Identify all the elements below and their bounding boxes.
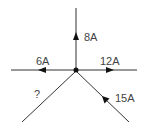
label-lower-right-current: 15A <box>115 92 135 104</box>
arrow-left-icon <box>38 67 46 73</box>
junction-node <box>74 68 79 73</box>
label-up-current: 8A <box>84 31 98 43</box>
arrow-up-icon <box>73 32 79 40</box>
label-left-current: 6A <box>36 55 50 67</box>
arrow-right-icon <box>106 67 114 73</box>
label-unknown-current: ? <box>34 88 40 100</box>
kirchhoff-junction-diagram: 8A 6A 12A ? 15A <box>0 0 149 132</box>
branch-lower-left-wire <box>22 71 76 122</box>
label-right-current: 12A <box>100 55 120 67</box>
